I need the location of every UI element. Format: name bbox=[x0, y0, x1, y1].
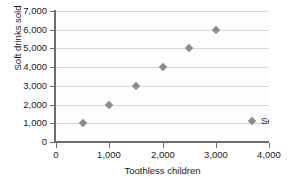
y-tick-label: 2,000 bbox=[3, 100, 47, 110]
y-tick bbox=[50, 105, 55, 106]
scatter-chart: Soft drinks sold Series 1 01,0002,0003,0… bbox=[0, 0, 288, 189]
gridline bbox=[56, 48, 269, 49]
y-tick bbox=[50, 142, 55, 143]
x-axis-line bbox=[54, 141, 269, 143]
legend-diamond-icon bbox=[248, 117, 256, 125]
x-tick bbox=[216, 143, 217, 148]
y-tick-label: 5,000 bbox=[3, 43, 47, 53]
data-point bbox=[185, 44, 193, 52]
y-tick bbox=[50, 123, 55, 124]
gridline bbox=[56, 30, 269, 31]
x-tick-label: 2,000 bbox=[141, 150, 185, 160]
x-axis-title: Toothless children bbox=[56, 165, 269, 176]
data-point bbox=[132, 82, 140, 90]
data-point bbox=[105, 100, 113, 108]
y-tick bbox=[50, 86, 55, 87]
y-tick bbox=[50, 48, 55, 49]
y-tick-label: 0 bbox=[3, 137, 47, 147]
x-tick-label: 1,000 bbox=[87, 150, 131, 160]
legend-label-series-1: Series 1 bbox=[261, 116, 269, 126]
x-tick bbox=[109, 143, 110, 148]
x-tick bbox=[269, 143, 270, 148]
y-tick-label: 4,000 bbox=[3, 62, 47, 72]
data-point bbox=[212, 25, 220, 33]
gridline bbox=[56, 11, 269, 12]
y-tick-label: 3,000 bbox=[3, 81, 47, 91]
y-tick bbox=[50, 67, 55, 68]
x-tick-label: 0 bbox=[34, 150, 78, 160]
x-tick bbox=[56, 143, 57, 148]
x-tick-label: 4,000 bbox=[247, 150, 288, 160]
plot-area: Series 1 bbox=[56, 11, 269, 142]
y-tick-label: 7,000 bbox=[3, 6, 47, 16]
data-point bbox=[158, 63, 166, 71]
y-tick-label: 1,000 bbox=[3, 118, 47, 128]
gridline bbox=[56, 123, 269, 124]
y-tick-label: 6,000 bbox=[3, 25, 47, 35]
gridline bbox=[56, 86, 269, 87]
x-tick bbox=[163, 143, 164, 148]
x-tick-label: 3,000 bbox=[194, 150, 238, 160]
gridline bbox=[56, 105, 269, 106]
data-point bbox=[78, 119, 86, 127]
legend: Series 1 bbox=[249, 114, 269, 128]
y-tick bbox=[50, 11, 55, 12]
y-tick bbox=[50, 30, 55, 31]
